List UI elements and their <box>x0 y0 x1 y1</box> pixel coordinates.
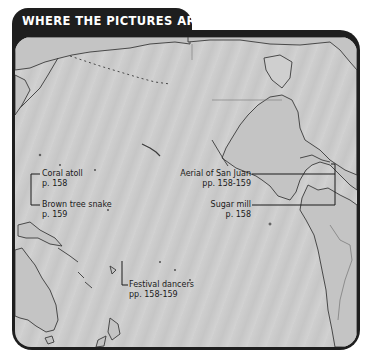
label-name: Sugar mill <box>211 200 251 210</box>
label-brown-tree-snake: Brown tree snake p. 159 <box>42 200 112 220</box>
label-page: p. 158 <box>211 210 251 220</box>
pacific-map <box>15 37 357 347</box>
label-aerial-san-juan: Aerial of San Juan pp. 158-159 <box>180 169 251 189</box>
label-name: Brown tree snake <box>42 200 112 210</box>
label-page: p. 158 <box>42 179 83 189</box>
coastlines <box>15 37 357 347</box>
label-sugar-mill: Sugar mill p. 158 <box>211 200 251 220</box>
label-festival-dancers: Festival dancers pp. 158-159 <box>129 280 194 300</box>
page-title: WHERE THE PICTURES ARE <box>22 14 204 28</box>
label-name: Festival dancers <box>129 280 194 290</box>
label-page: p. 159 <box>42 210 112 220</box>
label-name: Aerial of San Juan <box>180 169 251 179</box>
label-coral-atoll: Coral atoll p. 158 <box>42 169 83 189</box>
label-page: pp. 158-159 <box>129 290 194 300</box>
label-page: pp. 158-159 <box>180 179 251 189</box>
label-name: Coral atoll <box>42 169 83 179</box>
